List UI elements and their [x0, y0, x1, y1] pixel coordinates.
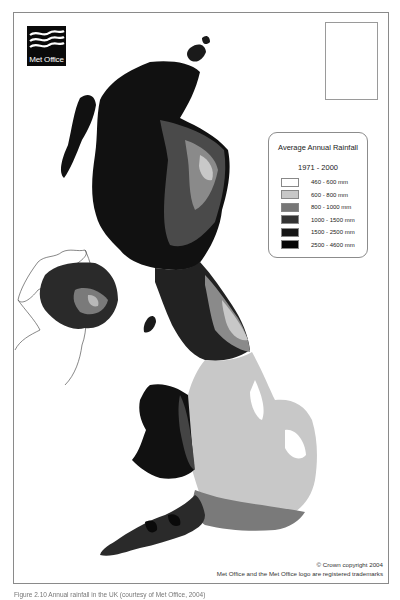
orkney	[187, 45, 206, 62]
legend-label: 600 - 800 mm	[311, 192, 348, 198]
legend-period: 1971 - 2000	[269, 163, 367, 172]
logo-text: Met Office	[27, 55, 66, 64]
legend-label: 2500 - 4600 mm	[311, 242, 355, 248]
legend-swatch	[281, 178, 299, 187]
legend-title: Average Annual Rainfall	[269, 143, 367, 152]
legend-swatch	[281, 228, 299, 237]
legend-swatch	[281, 203, 299, 212]
legend-swatch	[281, 215, 299, 224]
figure-caption: Figure 2.10 Annual rainfall in the UK (c…	[14, 591, 205, 598]
isle-of-man	[144, 316, 156, 333]
legend-item: 1500 - 2500 mm	[281, 226, 355, 239]
legend-label: 1000 - 1500 mm	[311, 217, 355, 223]
legend-item: 1000 - 1500 mm	[281, 214, 355, 227]
shetland-inset-box	[325, 22, 378, 100]
legend-item: 800 - 1000 mm	[281, 201, 355, 214]
met-office-logo: Met Office	[27, 26, 66, 66]
legend-swatch	[281, 240, 299, 249]
legend-label: 800 - 1000 mm	[311, 204, 351, 210]
legend-label: 460 - 600 mm	[311, 179, 348, 185]
met-office-waves-icon	[27, 26, 66, 56]
legend-item: 2500 - 4600 mm	[281, 239, 355, 252]
trademark-text: Met Office and the Met Office logo are r…	[217, 570, 383, 577]
legend-swatch	[281, 190, 299, 199]
legend-items: 460 - 600 mm 600 - 800 mm 800 - 1000 mm …	[281, 176, 355, 251]
copyright-text: © Crown copyright 2004	[317, 561, 383, 568]
legend: Average Annual Rainfall 1971 - 2000 460 …	[268, 132, 368, 258]
western-isles	[61, 95, 96, 178]
legend-item: 600 - 800 mm	[281, 189, 355, 202]
legend-label: 1500 - 2500 mm	[311, 229, 355, 235]
legend-item: 460 - 600 mm	[281, 176, 355, 189]
